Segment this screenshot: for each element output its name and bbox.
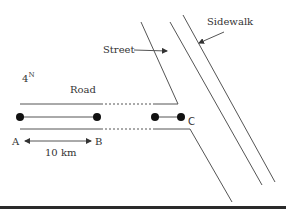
road-diagram: 4N Road Street Sidewalk A B C 10 km	[0, 0, 286, 212]
street-arrow-icon	[134, 50, 167, 51]
street-label: Street	[103, 44, 135, 55]
street-right-edge	[154, 129, 232, 202]
bottom-rule	[0, 206, 286, 209]
sidewalk-arrow-icon	[199, 32, 224, 43]
node-c-start	[151, 113, 159, 121]
node-a	[16, 113, 24, 121]
sidewalk-outer-edge	[183, 15, 275, 182]
sidewalk-label: Sidewalk	[207, 16, 254, 27]
north-label: 4N	[22, 71, 35, 84]
sidewalk-inner-edge	[170, 22, 262, 185]
road-label: Road	[70, 84, 97, 95]
node-b	[93, 113, 101, 121]
street-left-edge	[141, 22, 178, 104]
point-b-label: B	[95, 136, 102, 147]
node-c	[177, 113, 185, 121]
point-a-label: A	[11, 136, 20, 147]
distance-label: 10 km	[45, 147, 77, 158]
point-c-label: C	[188, 116, 195, 127]
